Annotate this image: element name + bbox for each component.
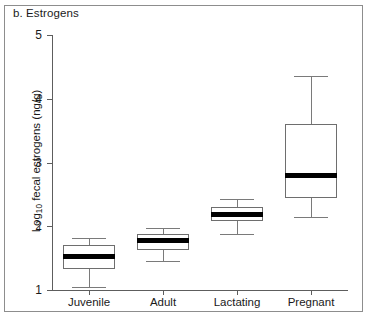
y-tick-label: 2 (8, 219, 42, 233)
median-line (63, 254, 115, 259)
x-tick-mark (311, 290, 312, 295)
whisker-cap-upper (294, 76, 328, 77)
median-line (137, 238, 189, 243)
x-tick-mark (237, 290, 238, 295)
y-tick-label: 4 (8, 92, 42, 106)
y-tick-label: 3 (8, 156, 42, 170)
y-tick-mark (47, 35, 52, 36)
whisker-cap-lower (220, 234, 254, 235)
whisker-cap-lower (294, 217, 328, 218)
y-axis-title-subscript: 10 (35, 204, 44, 213)
y-tick-mark (47, 226, 52, 227)
x-tick-mark (89, 290, 90, 295)
y-tick-label: 5 (8, 28, 42, 42)
y-tick-mark (47, 99, 52, 100)
median-line (285, 173, 337, 178)
whisker-upper (237, 199, 238, 207)
whisker-lower (89, 269, 90, 287)
x-tick-label-juvenile: Juvenile (68, 296, 110, 308)
box-iqr (285, 124, 337, 197)
whisker-cap-lower (72, 287, 106, 288)
whisker-upper (311, 76, 312, 124)
y-tick-mark (47, 163, 52, 164)
x-tick-label-pregnant: Pregnant (288, 296, 335, 308)
whisker-cap-lower (146, 261, 180, 262)
y-axis-line (52, 35, 53, 291)
whisker-cap-upper (72, 238, 106, 239)
y-tick-label: 1 (8, 283, 42, 297)
x-tick-label-adult: Adult (150, 296, 176, 308)
x-tick-mark (163, 290, 164, 295)
y-tick-mark (47, 290, 52, 291)
panel-title: b. Estrogens (13, 7, 79, 19)
whisker-lower (311, 198, 312, 217)
x-tick-label-lactating: Lactating (214, 296, 261, 308)
figure-panel-estrogens: b. Estrogens Log10 fecal estrogens (ng/g… (0, 0, 368, 318)
whisker-lower (237, 221, 238, 234)
whisker-cap-upper (220, 199, 254, 200)
whisker-cap-upper (146, 228, 180, 229)
whisker-lower (163, 250, 164, 261)
whisker-upper (89, 238, 90, 246)
y-axis-title-rest: fecal estrogens (ng/g) (30, 90, 42, 204)
median-line (211, 212, 263, 217)
x-axis-line (52, 290, 348, 291)
